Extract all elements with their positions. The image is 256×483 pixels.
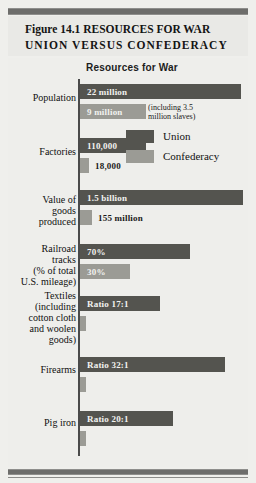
bar-value-firearms-union: Ratio 32:1 (87, 360, 129, 370)
bar-textiles-union[interactable]: Ratio 17:1 (80, 296, 160, 311)
category-label-pig-iron: Pig iron (10, 417, 76, 428)
bar-population-confederacy[interactable]: 9 million (including 3.5 million slaves) (80, 104, 146, 119)
chart-legend: Union Confederacy (126, 129, 219, 169)
category-label-railroad-tracks: Railroad tracks (% of total U.S. mileage… (10, 243, 76, 287)
bar-value-of-goods-confederacy[interactable]: 155 million (80, 210, 92, 225)
bar-value-railroad-tracks-union: 70% (87, 247, 106, 257)
legend-item-union[interactable]: Union (126, 129, 219, 143)
bottom-hairline-rule (8, 477, 248, 478)
bottom-rule (8, 469, 248, 475)
bar-value-value-of-goods-union: 1.5 billion (87, 193, 127, 203)
top-rule (8, 8, 248, 15)
category-label-firearms: Firearms (10, 364, 76, 375)
bar-population-union[interactable]: 22 million (80, 84, 241, 99)
bar-value-of-goods-union[interactable]: 1.5 billion (80, 190, 243, 205)
legend-swatch-union-icon (126, 130, 154, 143)
bar-value-factories-union: 110,000 (87, 141, 117, 151)
chart-panel: Resources for War Population Factories V… (8, 58, 248, 467)
bar-value-textiles-union: Ratio 17:1 (87, 299, 129, 309)
bar-firearms-union[interactable]: Ratio 32:1 (80, 357, 225, 372)
bar-factories-confederacy[interactable]: 18,000 (80, 158, 89, 173)
bar-pig-iron-union[interactable]: Ratio 20:1 (80, 411, 173, 426)
figure-container: Figure 14.1 RESOURCES FOR WAR UNION VERS… (0, 0, 256, 483)
bar-firearms-confederacy[interactable] (80, 377, 86, 392)
bar-value-value-of-goods-confederacy: 155 million (98, 213, 143, 223)
figure-title-line-1: Figure 14.1 RESOURCES FOR WAR (25, 21, 242, 37)
bar-note-population-confederacy: (including 3.5 million slaves) (148, 103, 226, 121)
legend-item-confederacy[interactable]: Confederacy (126, 149, 219, 163)
bar-pig-iron-confederacy[interactable] (80, 431, 86, 446)
bar-value-railroad-tracks-confederacy: 30% (87, 267, 106, 277)
figure-title-block: Figure 14.1 RESOURCES FOR WAR UNION VERS… (8, 16, 248, 56)
bar-railroad-tracks-confederacy[interactable]: 30% (80, 264, 130, 279)
bar-value-population-confederacy: 9 million (87, 107, 123, 117)
category-label-factories: Factories (10, 146, 76, 157)
bar-railroad-tracks-union[interactable]: 70% (80, 244, 190, 259)
legend-label-union: Union (163, 130, 191, 142)
category-label-value-of-goods: Value of goods produced (10, 194, 76, 227)
bar-value-population-union: 22 million (87, 87, 127, 97)
legend-label-confederacy: Confederacy (163, 150, 219, 162)
category-label-textiles: Textiles (including cotton cloth and woo… (10, 290, 76, 345)
bar-value-factories-confederacy: 18,000 (95, 161, 121, 171)
category-label-population: Population (10, 92, 76, 103)
bar-textiles-confederacy[interactable] (80, 316, 86, 331)
bar-value-pig-iron-union: Ratio 20:1 (87, 414, 129, 424)
legend-swatch-confederacy-icon (126, 150, 154, 163)
figure-title-line-2: UNION VERSUS CONFEDERACY (25, 37, 242, 53)
category-label-column: Population Factories Value of goods prod… (8, 80, 76, 457)
chart-heading: Resources for War (86, 62, 178, 73)
